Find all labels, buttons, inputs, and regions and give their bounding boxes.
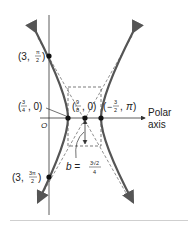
svg-text:3: 3 bbox=[114, 99, 117, 105]
svg-text:π: π bbox=[126, 101, 133, 112]
svg-text:(3,: (3, bbox=[18, 51, 30, 62]
svg-text:3: 3 bbox=[22, 99, 25, 105]
svg-text:,: , bbox=[120, 101, 123, 112]
hyperbola-diagram: (3, π 2 ) ( 3 4 , 0) O ( 9 8 , 0) ( − 3 … bbox=[0, 0, 188, 232]
label-bottom-point: (3, 3π 2 ) bbox=[12, 170, 41, 184]
label-center: ( 9 8 , 0) bbox=[72, 99, 96, 113]
label-b: b = 3√2 4 bbox=[66, 160, 101, 175]
hyperbola-right-branch bbox=[101, 32, 133, 202]
svg-text:8: 8 bbox=[76, 107, 79, 113]
point-vertex-right bbox=[98, 115, 103, 120]
point-top bbox=[46, 53, 51, 58]
svg-text:3√2: 3√2 bbox=[90, 160, 99, 166]
svg-text:, 0): , 0) bbox=[28, 101, 42, 112]
svg-text:−: − bbox=[107, 102, 112, 112]
svg-text:π: π bbox=[36, 49, 40, 55]
svg-text:2: 2 bbox=[36, 57, 39, 63]
b-pointer bbox=[76, 132, 84, 158]
label-top-point: (3, π 2 ) bbox=[18, 49, 45, 63]
svg-text:2: 2 bbox=[31, 178, 34, 184]
point-vertex-left bbox=[65, 115, 70, 120]
point-bottom bbox=[46, 174, 51, 179]
polar-axis-label-line1: Polar bbox=[148, 107, 172, 118]
svg-text:9: 9 bbox=[76, 99, 79, 105]
pole-label: O bbox=[41, 121, 47, 130]
label-right-vertex: ( − 3 2 , π ) bbox=[103, 99, 136, 113]
svg-text:): ) bbox=[42, 51, 45, 62]
svg-text:, 0): , 0) bbox=[82, 101, 96, 112]
svg-text:3π: 3π bbox=[29, 170, 36, 176]
svg-text:b =: b = bbox=[66, 161, 80, 172]
point-center bbox=[82, 115, 87, 120]
svg-text:(3,: (3, bbox=[12, 172, 24, 183]
svg-text:4: 4 bbox=[93, 169, 96, 175]
svg-text:): ) bbox=[133, 101, 136, 112]
svg-text:): ) bbox=[38, 172, 41, 183]
polar-axis-label-line2: axis bbox=[148, 119, 166, 130]
label-left-vertex: ( 3 4 , 0) bbox=[18, 99, 42, 113]
svg-text:4: 4 bbox=[22, 107, 25, 113]
bottom-divider bbox=[10, 220, 188, 221]
svg-text:2: 2 bbox=[114, 107, 117, 113]
